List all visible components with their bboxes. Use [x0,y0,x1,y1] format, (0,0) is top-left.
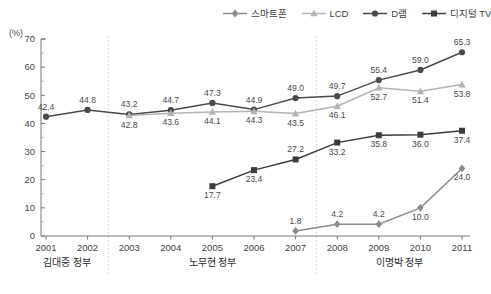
data-label: 35.8 [370,139,387,149]
data-label: 44.8 [79,95,96,105]
triangle-icon [301,8,327,19]
y-tick-label: 40 [24,118,35,129]
data-point-marker [293,95,299,101]
legend-label: LCD [330,8,349,19]
data-point-marker [417,132,423,138]
data-label: 44.1 [204,116,221,126]
x-tick-label: 2009 [368,242,389,253]
y-tick-label: 50 [24,90,35,101]
data-point-marker [417,67,423,73]
data-label: 4.2 [373,209,385,219]
x-tick-label: 2007 [285,242,306,253]
chart-legend: 스마트폰LCDD램디지털 TV [222,6,491,20]
x-tick-label: 2003 [119,242,140,253]
x-tick-label: 2006 [243,242,264,253]
data-label: 42.8 [121,120,138,130]
data-label: 44.3 [246,115,263,125]
y-tick-label: 30 [24,146,35,157]
data-label: 43.6 [162,117,179,127]
y-tick-label: 0 [30,230,35,241]
data-label: 10.0 [412,212,429,222]
legend-item-4[interactable]: 디지털 TV [421,6,491,20]
data-point-marker [459,49,465,55]
data-point-marker [334,220,341,228]
data-point-marker [293,156,299,162]
data-label: 46.1 [329,110,346,120]
group-label-1: 김대중 정부 [43,257,91,268]
data-label: 43.5 [287,118,304,128]
data-point-marker [375,220,382,228]
data-label: 42.4 [38,102,55,112]
data-point-marker [334,93,340,99]
data-label: 36.0 [412,139,429,149]
data-label: 43.2 [121,99,138,109]
y-tick-label: 10 [24,202,35,213]
diamond-icon [222,8,248,19]
data-label: 23.4 [246,174,263,184]
y-tick-label: 70 [24,33,35,44]
y-tick-label: 60 [24,61,35,72]
data-point-marker [376,77,382,83]
legend-label: 디지털 TV [450,6,491,20]
data-label: 52.7 [370,92,387,102]
data-label: 65.3 [454,37,471,47]
y-tick-label: 20 [24,174,35,185]
x-tick-label: 2005 [202,242,223,253]
data-label: 44.7 [162,95,179,105]
data-label: 24.0 [454,172,471,182]
data-point-marker [292,227,299,235]
data-label: 37.4 [454,135,471,145]
data-label: 59.0 [412,55,429,65]
data-label: 33.2 [329,147,346,157]
data-label: 44.9 [246,95,263,105]
data-point-marker [209,183,215,189]
data-point-marker [43,114,49,120]
x-tick-label: 2004 [160,242,181,253]
legend-item-2[interactable]: LCD [301,8,349,19]
data-label: 4.2 [331,209,343,219]
data-label: 27.2 [287,144,304,154]
data-point-marker [458,81,465,88]
data-point-marker [209,100,215,106]
data-point-marker [334,140,340,146]
x-tick-label: 2002 [77,242,98,253]
group-label-3: 이명박 정부 [376,257,424,268]
x-tick-label: 2001 [35,242,56,253]
data-label: 49.0 [287,83,304,93]
data-label: 1.8 [290,216,302,226]
data-point-marker [375,84,382,91]
data-point-marker [459,128,465,134]
legend-item-3[interactable]: D램 [362,6,407,20]
data-point-marker [251,167,257,173]
data-point-marker [376,132,382,138]
data-label: 51.4 [412,95,429,105]
data-label: 49.7 [329,81,346,91]
data-label: 55.4 [370,65,387,75]
data-label: 47.3 [204,88,221,98]
x-tick-label: 2008 [327,242,348,253]
legend-label: 스마트폰 [251,6,287,20]
group-label-2: 노무현 정부 [189,257,237,268]
circle-icon [362,8,388,19]
data-label: 53.8 [454,89,471,99]
x-tick-label: 2010 [410,242,431,253]
square-icon [421,8,447,19]
data-label: 17.7 [204,190,221,200]
x-tick-label: 2011 [452,242,472,253]
y-axis-unit-label: (%) [9,28,23,38]
legend-item-1[interactable]: 스마트폰 [222,6,287,20]
legend-label: D램 [391,6,407,20]
data-point-marker [85,107,91,113]
